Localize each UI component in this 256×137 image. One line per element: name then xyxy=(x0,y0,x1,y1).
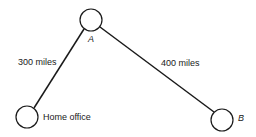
route-diagram: A Home office B 300 miles 400 miles xyxy=(0,0,256,137)
node-b-circle xyxy=(211,109,233,131)
node-home-label: Home office xyxy=(43,112,91,122)
edge-a-b xyxy=(100,27,214,112)
node-a-label: A xyxy=(87,34,94,44)
diagram-svg: A Home office B 300 miles 400 miles xyxy=(0,0,256,137)
node-b-label: B xyxy=(238,113,244,123)
edge-a-b-label: 400 miles xyxy=(161,58,200,68)
node-home-circle xyxy=(16,106,38,128)
node-a-circle xyxy=(80,9,102,31)
edge-home-a xyxy=(34,29,84,108)
edge-home-a-label: 300 miles xyxy=(18,57,57,67)
